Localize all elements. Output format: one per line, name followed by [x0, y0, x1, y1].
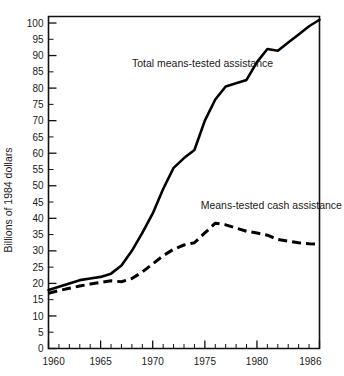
y-axis-tick-label: 55 [32, 164, 44, 175]
chart-figure: 0510152025303540455055606570758085909510… [0, 0, 344, 376]
y-axis-tick-label: 45 [32, 197, 44, 208]
y-axis-title: Billions of 1984 dollars [2, 147, 14, 252]
y-axis-tick-label: 85 [32, 66, 44, 77]
y-axis-tick-label: 90 [32, 50, 44, 61]
y-axis-tick-label: 80 [32, 83, 44, 94]
x-axis-tick-labels: 196019651970197519801986 [43, 356, 322, 367]
x-axis-tick-label: 1970 [142, 356, 165, 367]
y-axis-tick-label: 100 [27, 18, 44, 29]
series-line-2 [49, 223, 320, 293]
y-axis-tick-label: 70 [32, 115, 44, 126]
series-annotation-label: Means-tested cash assistance [201, 199, 342, 211]
y-axis-tick-label: 40 [32, 213, 44, 224]
y-axis-tick-label: 0 [38, 343, 44, 354]
y-axis-title-group: Billions of 1984 dollars [2, 147, 14, 252]
y-axis-tick-label: 75 [32, 99, 44, 110]
y-axis-tick-label: 15 [32, 294, 44, 305]
y-axis-tick-label: 50 [32, 180, 44, 191]
y-axis-ticks [49, 23, 57, 348]
y-axis-tick-label: 65 [32, 132, 44, 143]
x-axis-tick-label: 1980 [246, 356, 269, 367]
x-axis-tick-label: 1965 [89, 356, 112, 367]
x-axis-tick-label: 1975 [194, 356, 217, 367]
x-axis-tick-label: 1960 [43, 356, 66, 367]
y-axis-tick-label: 95 [32, 34, 44, 45]
x-axis-ticks [49, 341, 320, 349]
y-axis-tick-label: 10 [32, 311, 44, 322]
y-axis-tick-labels: 0510152025303540455055606570758085909510… [27, 18, 44, 354]
y-axis-tick-label: 5 [38, 327, 44, 338]
y-axis-tick-label: 25 [32, 262, 44, 273]
y-axis-tick-label: 35 [32, 229, 44, 240]
line-chart-canvas: 0510152025303540455055606570758085909510… [0, 0, 344, 376]
series-annotation-label: Total means-tested assistance [132, 57, 273, 69]
y-axis-tick-label: 30 [32, 245, 44, 256]
y-axis-tick-label: 20 [32, 278, 44, 289]
x-axis-tick-label: 1986 [299, 356, 322, 367]
y-axis-tick-label: 60 [32, 148, 44, 159]
